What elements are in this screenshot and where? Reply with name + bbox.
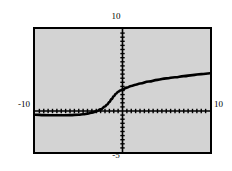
axis-label-right: 10 — [214, 99, 232, 109]
plot-frame — [33, 27, 212, 154]
graph-figure: 10 -10 10 -5 — [0, 0, 232, 171]
axis-label-top: 10 — [0, 11, 232, 21]
axis-label-left: -10 — [4, 99, 30, 109]
plot-canvas — [35, 29, 210, 152]
